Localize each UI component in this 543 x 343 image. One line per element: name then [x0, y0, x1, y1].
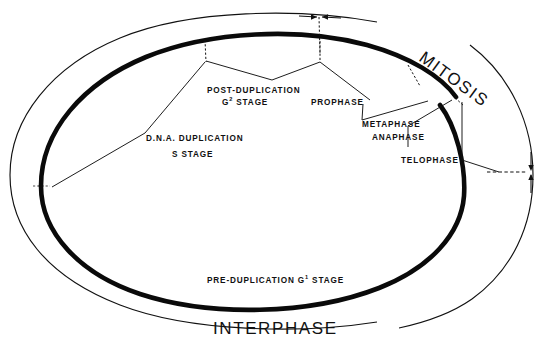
right-boundary-marker: [487, 152, 534, 193]
label-metaphase: METAPHASE: [362, 120, 420, 129]
label-post-duplication-line1: POST-DUPLICATION: [207, 86, 301, 95]
tick-metaphase-boundary: [408, 65, 420, 86]
leader-dna-duplication: [52, 62, 205, 187]
cycle-ring-main: [41, 34, 456, 186]
cell-cycle-diagram: POST-DUPLICATION G2 STAGE PROPHASE D.N.A…: [0, 0, 543, 343]
label-g1-stage-word: STAGE: [309, 276, 344, 285]
label-interphase: INTERPHASE: [213, 319, 338, 338]
label-g2-stage-word: STAGE: [233, 98, 268, 107]
label-dna-duplication-line2: S STAGE: [172, 150, 213, 159]
tick-g2-boundary: [205, 40, 206, 62]
label-post-duplication-line2: G2 STAGE: [222, 96, 268, 107]
label-g2-letter: G: [222, 98, 229, 107]
label-prophase: PROPHASE: [311, 98, 364, 107]
label-anaphase: ANAPHASE: [372, 133, 425, 142]
svg-text:PRE-DUPLICATION G1 STAGE: PRE-DUPLICATION G1 STAGE: [207, 274, 344, 285]
label-pre-duplication-text: PRE-DUPLICATION G: [207, 276, 305, 285]
leader-post-duplication: [206, 61, 320, 80]
outer-ellipse-bottom-right-stub: [399, 299, 472, 328]
leader-prophase: [320, 62, 370, 100]
label-telophase: TELOPHASE: [401, 156, 459, 165]
svg-text:G2 STAGE: G2 STAGE: [222, 96, 268, 107]
label-dna-duplication-line1: D.N.A. DUPLICATION: [146, 134, 243, 143]
leader-metaphase: [362, 101, 428, 120]
leader-telophase: [462, 102, 499, 172]
label-pre-duplication: PRE-DUPLICATION G1 STAGE: [207, 274, 344, 285]
